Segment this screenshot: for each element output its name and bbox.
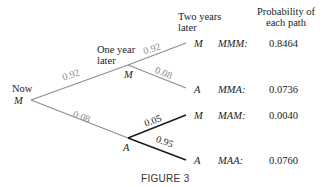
node-root: M [14, 95, 23, 106]
node-l1-a: A [123, 142, 129, 153]
node-l2-m1: M [194, 38, 203, 49]
path-mmm: MMM: [218, 38, 248, 49]
header-two-years: Two years later [178, 11, 221, 33]
node-l2-a2: A [194, 155, 200, 166]
node-l1-m: M [124, 69, 133, 80]
path-prob-maa: 0.0760 [269, 155, 298, 166]
path-prob-mmm: 0.8464 [269, 38, 298, 49]
node-l2-m2: M [194, 110, 203, 121]
path-maa: MAA: [218, 155, 243, 166]
header-two-years-line1: Two years [178, 11, 221, 22]
header-probability-line1: Probability of [251, 6, 321, 17]
header-probability-line2: each path [251, 17, 321, 28]
header-probability: Probability of each path [251, 6, 321, 28]
header-two-years-line2: later [178, 22, 221, 33]
header-one-year-line2: later [97, 55, 135, 66]
header-one-year: One year later [97, 44, 135, 66]
path-mma: MMA: [218, 84, 245, 95]
header-one-year-line1: One year [97, 44, 135, 55]
edge-root-m [31, 65, 128, 100]
path-prob-mam: 0.0040 [269, 110, 298, 121]
figure-caption: FIGURE 3 [141, 173, 190, 184]
node-l2-a1: A [194, 84, 200, 95]
path-prob-mma: 0.0736 [269, 84, 298, 95]
path-mam: MAM: [218, 110, 245, 121]
header-now: Now [12, 83, 32, 94]
